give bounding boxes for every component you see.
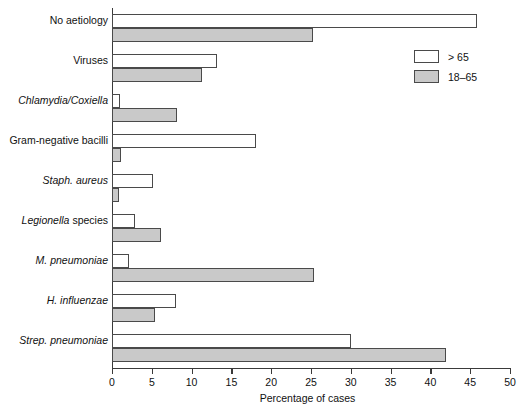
bar-18-65 [112, 68, 202, 82]
bar-over65 [112, 174, 153, 188]
y-axis-label: Staph. aureus [4, 174, 108, 186]
bar-over65 [112, 214, 135, 228]
bar-group [112, 214, 510, 242]
bar-18-65 [112, 148, 121, 162]
x-axis-tick-label: 20 [265, 376, 277, 389]
x-axis-tick [192, 368, 193, 374]
bar-group [112, 94, 510, 122]
y-axis-label: Viruses [4, 54, 108, 66]
chart-legend: > 65 18–65 [414, 48, 477, 88]
bar-over65 [112, 54, 217, 68]
bar-group [112, 254, 510, 282]
bar-group [112, 134, 510, 162]
legend-label-over65: > 65 [448, 51, 469, 63]
legend-entry-18-65: 18–65 [414, 68, 477, 85]
x-axis-tick-label: 40 [425, 376, 437, 389]
bar-over65 [112, 14, 477, 28]
bar-group [112, 294, 510, 322]
y-axis-label: No aetiology [4, 14, 108, 26]
y-axis-label: Legionella species [4, 214, 108, 226]
bar-group [112, 174, 510, 202]
legend-label-18-65: 18–65 [448, 71, 477, 83]
x-axis-tick [430, 368, 431, 374]
bar-over65 [112, 294, 176, 308]
legend-entry-over65: > 65 [414, 48, 477, 65]
bar-group [112, 14, 510, 42]
bar-over65 [112, 254, 129, 268]
x-axis-tick-label: 45 [464, 376, 476, 389]
x-axis-tick-label: 50 [504, 376, 516, 389]
bar-18-65 [112, 348, 446, 362]
y-axis-label: M. pneumoniae [4, 254, 108, 266]
x-axis-tick-label: 35 [385, 376, 397, 389]
y-axis-label: Chlamydia/Coxiella [4, 94, 108, 106]
x-axis-tick [311, 368, 312, 374]
x-axis-tick-label: 15 [226, 376, 238, 389]
legend-swatch-over65 [414, 50, 439, 63]
x-axis-tick [351, 368, 352, 374]
chart-container: No aetiologyVirusesChlamydia/CoxiellaGra… [0, 0, 531, 412]
bar-18-65 [112, 268, 314, 282]
y-axis-label: Gram-negative bacilli [4, 134, 108, 146]
x-axis-tick [112, 368, 113, 374]
bar-over65 [112, 134, 256, 148]
x-axis-tick-label: 10 [186, 376, 198, 389]
x-axis-tick-label: 5 [149, 376, 155, 389]
bar-18-65 [112, 28, 313, 42]
x-axis-tick-label: 30 [345, 376, 357, 389]
x-axis-title: Percentage of cases [0, 392, 531, 404]
bar-18-65 [112, 108, 177, 122]
y-axis-tick-labels: No aetiologyVirusesChlamydia/CoxiellaGra… [0, 0, 108, 360]
x-axis-tick-label: 25 [305, 376, 317, 389]
bar-18-65 [112, 188, 119, 202]
x-axis-tick [231, 368, 232, 374]
bar-over65 [112, 94, 120, 108]
x-axis-tick [391, 368, 392, 374]
y-axis-label: Strep. pneumoniae [4, 334, 108, 346]
x-axis-tick [152, 368, 153, 374]
bar-18-65 [112, 308, 155, 322]
bar-18-65 [112, 228, 161, 242]
x-axis-tick [470, 368, 471, 374]
x-axis-title-text: Percentage of cases [260, 392, 356, 404]
x-axis-tick [510, 368, 511, 374]
bar-over65 [112, 334, 351, 348]
legend-swatch-18-65 [414, 70, 439, 83]
x-axis-tick-label: 0 [109, 376, 115, 389]
bar-group [112, 334, 510, 362]
y-axis-label: H. influenzae [4, 294, 108, 306]
x-axis-tick [271, 368, 272, 374]
